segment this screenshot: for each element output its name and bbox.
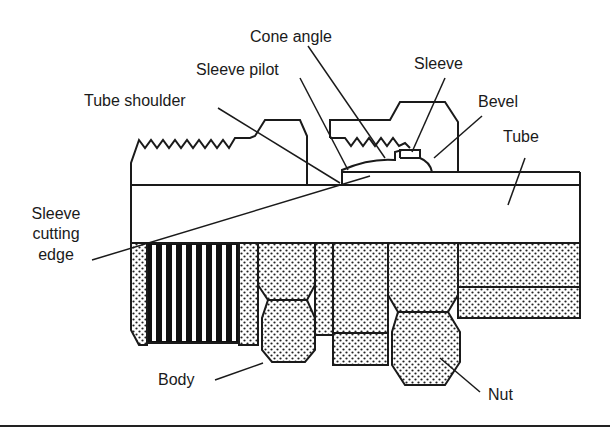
upper-outline (131, 102, 580, 245)
label-tube: Tube (503, 128, 539, 145)
label-sleeve-cutting-edge-1: Sleeve (26, 205, 86, 222)
label-sleeve-cutting-edge-3: edge (26, 246, 86, 263)
bottom-rule (0, 425, 610, 427)
leader-tube (508, 158, 525, 205)
label-cone-angle: Cone angle (250, 28, 332, 45)
label-sleeve-pilot: Sleeve pilot (196, 61, 279, 78)
label-bevel: Bevel (478, 93, 518, 110)
thread-stripes (152, 245, 236, 341)
label-body: Body (158, 371, 194, 388)
label-sleeve-cutting-edge-2: cutting (26, 225, 86, 242)
leader-body (215, 363, 263, 380)
fitting-diagram (0, 0, 610, 431)
lower-section (131, 243, 580, 385)
label-nut: Nut (488, 386, 513, 403)
label-sleeve: Sleeve (414, 55, 463, 72)
label-tube-shoulder: Tube shoulder (84, 92, 186, 109)
leader-sleeve (412, 78, 445, 152)
